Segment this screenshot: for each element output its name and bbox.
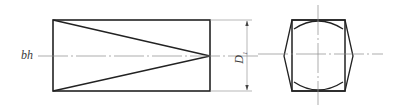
front-view-outline bbox=[53, 20, 210, 91]
dimension-label-main: D bbox=[232, 55, 246, 64]
end-view-square bbox=[292, 20, 345, 91]
technical-drawing bbox=[0, 0, 393, 112]
end-view-arc-top bbox=[294, 21, 343, 29]
arrow-down-icon bbox=[245, 85, 248, 91]
taper-line-upper bbox=[53, 20, 210, 56]
front-view bbox=[38, 20, 258, 91]
end-view bbox=[258, 5, 383, 105]
end-view-arc-bottom bbox=[294, 82, 343, 90]
taper-line-lower bbox=[53, 56, 210, 91]
dimension-label: D1 bbox=[233, 52, 248, 64]
dimension-label-subscript: 1 bbox=[241, 52, 249, 56]
axis-label: bh bbox=[21, 49, 33, 61]
arrow-up-icon bbox=[245, 21, 248, 27]
end-view-hexagon bbox=[284, 20, 353, 91]
